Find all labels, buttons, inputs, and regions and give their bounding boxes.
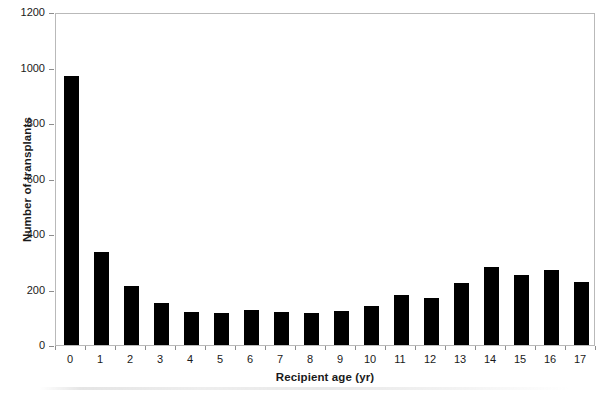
x-axis-tick-mark bbox=[475, 346, 476, 350]
bar bbox=[574, 282, 589, 345]
plot-area bbox=[55, 13, 595, 346]
x-axis-tick-mark bbox=[355, 346, 356, 350]
y-axis-tick-label: 1000 bbox=[21, 63, 45, 74]
x-axis-tick-mark bbox=[565, 346, 566, 350]
x-axis-tick-mark bbox=[145, 346, 146, 350]
bar bbox=[424, 298, 439, 345]
x-axis-tick-mark bbox=[235, 346, 236, 350]
bar-series bbox=[56, 14, 594, 345]
x-axis-tick-mark bbox=[445, 346, 446, 350]
bar bbox=[94, 252, 109, 345]
y-axis-tick-label: 1200 bbox=[21, 7, 45, 18]
bar bbox=[334, 311, 349, 345]
bar bbox=[304, 313, 319, 345]
x-axis-tick-mark bbox=[415, 346, 416, 350]
y-axis-tick-mark bbox=[49, 291, 54, 292]
x-axis-tick-mark bbox=[505, 346, 506, 350]
y-axis-tick-mark bbox=[49, 180, 54, 181]
bar bbox=[394, 295, 409, 345]
x-axis-tick-mark bbox=[385, 346, 386, 350]
y-axis-tick-mark bbox=[49, 346, 54, 347]
y-axis-tick-label: 400 bbox=[27, 229, 45, 240]
x-axis-tick-mark bbox=[535, 346, 536, 350]
y-axis-tick-mark bbox=[49, 13, 54, 14]
bar bbox=[454, 283, 469, 345]
y-axis-tick-mark bbox=[49, 235, 54, 236]
x-axis-tick-label: 17 bbox=[560, 353, 600, 365]
bar bbox=[484, 267, 499, 345]
bar bbox=[244, 310, 259, 345]
bar bbox=[124, 286, 139, 345]
bar bbox=[514, 275, 529, 345]
bar bbox=[544, 270, 559, 345]
x-axis-tick-mark bbox=[115, 346, 116, 350]
bar bbox=[364, 306, 379, 345]
bar bbox=[154, 303, 169, 345]
bar bbox=[184, 312, 199, 345]
bar bbox=[214, 313, 229, 345]
bar-chart: Number of transplants 020040060080010001… bbox=[0, 0, 604, 393]
y-axis-tick-label: 0 bbox=[39, 340, 45, 351]
y-axis-tick-label: 600 bbox=[27, 174, 45, 185]
bar bbox=[274, 312, 289, 345]
x-axis-title: Recipient age (yr) bbox=[55, 371, 595, 383]
y-axis-tick-mark bbox=[49, 69, 54, 70]
x-axis-tick-mark bbox=[85, 346, 86, 350]
scan-artifact bbox=[40, 387, 570, 390]
y-axis-tick-label: 800 bbox=[27, 118, 45, 129]
y-axis-tick-label: 200 bbox=[27, 285, 45, 296]
x-axis-tick-mark bbox=[325, 346, 326, 350]
x-axis-tick-mark bbox=[175, 346, 176, 350]
bar bbox=[64, 76, 79, 345]
x-axis-tick-mark bbox=[55, 346, 56, 350]
x-axis-tick-mark bbox=[595, 346, 596, 350]
x-axis-tick-mark bbox=[295, 346, 296, 350]
x-axis-tick-mark bbox=[205, 346, 206, 350]
y-axis-tick-mark bbox=[49, 124, 54, 125]
x-axis-tick-mark bbox=[265, 346, 266, 350]
